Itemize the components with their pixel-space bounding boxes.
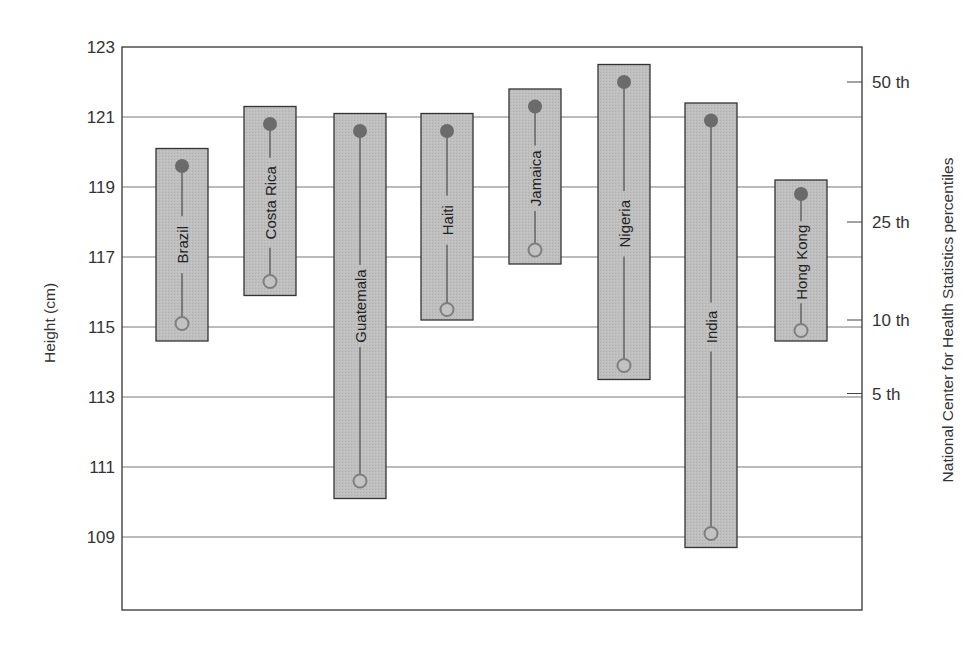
open-circle-marker-icon (354, 475, 367, 488)
country-label: Guatemala (352, 269, 369, 343)
percentile-label: 5 th (872, 385, 900, 404)
range-box-jamaica: Jamaica (509, 89, 561, 264)
chart-canvas: 109111113115117119121123 50 th25 th10 th… (0, 0, 976, 649)
y-tick-label: 119 (88, 178, 115, 197)
right-axis-title: National Center for Health Statistics pe… (939, 157, 956, 482)
filled-circle-marker-icon (175, 159, 189, 173)
left-y-axis: 109111113115117119121123 (87, 38, 115, 547)
filled-circle-marker-icon (617, 75, 631, 89)
country-label: Brazil (174, 226, 191, 264)
y-tick-label: 111 (89, 458, 115, 477)
country-label: Haiti (439, 205, 456, 235)
y-tick-label: 115 (88, 318, 115, 337)
country-label: Jamaica (527, 150, 544, 207)
filled-circle-marker-icon (440, 124, 454, 138)
filled-circle-marker-icon (263, 117, 277, 131)
y-tick-label: 113 (88, 388, 115, 407)
open-circle-marker-icon (441, 303, 454, 316)
country-label: Hong Kong (793, 225, 810, 300)
country-label: India (703, 310, 720, 343)
plot-border (122, 47, 862, 610)
y-tick-label: 121 (87, 108, 115, 127)
open-circle-marker-icon (795, 324, 808, 337)
filled-circle-marker-icon (353, 124, 367, 138)
range-box-haiti: Haiti (421, 114, 473, 321)
country-label: Costa Rica (262, 165, 279, 239)
y-axis-title: Height (cm) (41, 283, 58, 363)
range-box-costa-rica: Costa Rica (244, 107, 296, 296)
open-circle-marker-icon (705, 527, 718, 540)
right-percentile-axis: 50 th25 th10 th5 th (847, 73, 910, 404)
y-tick-label: 123 (87, 38, 115, 57)
y-tick-label: 109 (87, 528, 115, 547)
country-label: Nigeria (616, 199, 633, 247)
percentile-label: 10 th (872, 311, 910, 330)
y-tick-label: 117 (88, 248, 115, 267)
range-box-india: India (685, 103, 737, 548)
range-box-hong-kong: Hong Kong (775, 180, 827, 341)
open-circle-marker-icon (176, 317, 189, 330)
gridlines (122, 117, 862, 537)
percentile-label: 50 th (872, 73, 910, 92)
range-box-nigeria: Nigeria (598, 65, 650, 380)
open-circle-marker-icon (529, 244, 542, 257)
plot-frame (122, 47, 862, 610)
filled-circle-marker-icon (794, 187, 808, 201)
country-ranges: BrazilCosta RicaGuatemalaHaitiJamaicaNig… (156, 65, 827, 548)
range-box-guatemala: Guatemala (334, 114, 386, 499)
filled-circle-marker-icon (528, 100, 542, 114)
range-box-brazil: Brazil (156, 149, 208, 342)
percentile-label: 25 th (872, 213, 910, 232)
open-circle-marker-icon (264, 275, 277, 288)
open-circle-marker-icon (618, 359, 631, 372)
filled-circle-marker-icon (704, 114, 718, 128)
